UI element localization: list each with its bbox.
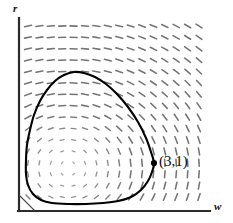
field-dash	[82, 37, 89, 38]
field-dash	[152, 182, 154, 189]
field-dash	[72, 140, 76, 141]
field-dash	[139, 47, 145, 50]
field-dash	[25, 59, 32, 61]
field-dash	[38, 150, 40, 154]
field-dash	[164, 182, 166, 189]
field-dash	[198, 137, 200, 144]
field-dash	[94, 195, 98, 198]
field-dash	[185, 47, 191, 51]
field-dash	[93, 60, 100, 61]
field-dash	[162, 47, 168, 50]
field-dash	[116, 70, 123, 72]
field-dash	[25, 93, 32, 95]
field-dash	[119, 160, 120, 166]
field-dash	[116, 25, 123, 27]
field-dash	[47, 37, 54, 38]
field-dash	[93, 48, 100, 49]
field-dash	[25, 71, 32, 73]
field-dash	[49, 139, 53, 141]
field-dash	[26, 195, 30, 199]
field-dash	[82, 116, 88, 118]
origin-corner-tick	[20, 196, 34, 210]
field-dash	[185, 81, 190, 86]
field-dash	[196, 58, 201, 63]
field-dash	[38, 184, 41, 188]
field-dash	[150, 47, 156, 50]
field-dash	[162, 103, 167, 108]
field-dash	[139, 36, 146, 39]
field-dash	[105, 93, 112, 95]
field-dash	[105, 115, 111, 118]
field-dash	[140, 115, 145, 120]
field-dash	[128, 93, 134, 97]
field-dash	[107, 183, 110, 188]
field-dash	[36, 48, 43, 49]
field-dash	[197, 103, 201, 109]
field-dash	[93, 82, 100, 84]
field-dash	[49, 150, 52, 152]
field-dash	[37, 138, 41, 141]
field-dash	[173, 47, 179, 51]
field-dash	[96, 161, 97, 165]
field-dash	[116, 48, 123, 50]
field-dash	[139, 92, 145, 96]
field-dash	[187, 182, 188, 189]
field-dash	[127, 70, 133, 73]
field-dash	[28, 172, 29, 177]
field-dash	[105, 127, 110, 131]
field-dash	[198, 194, 200, 201]
field-dash	[73, 162, 75, 164]
field-dash	[116, 59, 123, 61]
field-dash	[82, 94, 89, 95]
y-axis-label: r	[13, 3, 17, 14]
field-dash	[196, 69, 201, 74]
field-dash	[48, 128, 53, 130]
field-dash	[174, 92, 179, 97]
field-dash	[61, 151, 64, 152]
field-dash	[140, 137, 143, 143]
field-dash	[128, 126, 133, 131]
field-dash	[185, 24, 191, 28]
field-dash	[36, 93, 43, 95]
orbit-point-marker	[151, 160, 157, 166]
field-dash	[173, 69, 179, 73]
field-dash	[150, 59, 156, 62]
orbit-point-dot	[151, 160, 157, 166]
field-dash	[95, 150, 97, 154]
field-dash	[60, 140, 64, 141]
field-dash	[104, 25, 111, 26]
field-dash	[130, 171, 131, 178]
field-dash	[93, 71, 100, 72]
field-dash	[36, 82, 43, 84]
field-dash	[105, 104, 111, 107]
field-dash	[107, 149, 109, 154]
field-dash	[128, 115, 133, 120]
field-dash	[186, 194, 188, 201]
field-dash	[118, 149, 120, 155]
field-dash	[150, 25, 156, 28]
field-dash	[39, 172, 40, 176]
field-dash	[140, 194, 143, 200]
orbit-point-label: (3,1)	[159, 154, 188, 169]
field-dash	[162, 25, 168, 28]
field-dash	[151, 115, 156, 120]
field-dash	[175, 182, 177, 189]
field-dash	[82, 48, 89, 49]
x-axis-label: w	[214, 201, 221, 212]
field-dash	[25, 37, 32, 38]
field-dash	[71, 128, 76, 129]
field-dash	[141, 148, 143, 155]
field-dash	[107, 160, 108, 165]
field-dash	[82, 26, 89, 27]
field-dash	[162, 70, 168, 74]
field-dash	[60, 197, 64, 198]
field-dash	[130, 159, 131, 166]
field-dash	[104, 59, 111, 61]
phase-portrait-figure: r w (3,1)	[0, 0, 233, 223]
field-dash	[176, 171, 177, 178]
field-dash	[150, 36, 156, 39]
field-dash	[72, 151, 75, 152]
field-dash	[142, 171, 143, 178]
field-dash	[173, 58, 179, 62]
field-dash	[198, 182, 199, 189]
